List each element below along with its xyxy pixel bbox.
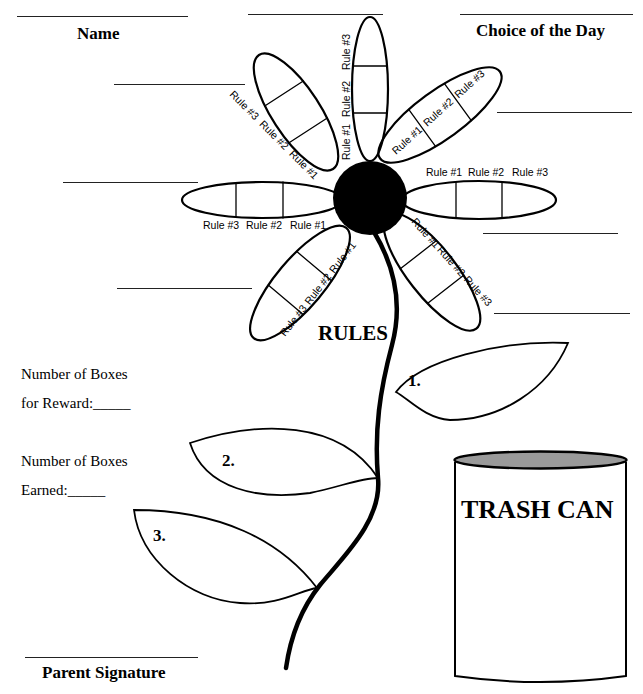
svg-text:Rule #2: Rule #2: [421, 95, 456, 128]
svg-text:Rule #2: Rule #2: [435, 244, 468, 279]
parent-signature-line[interactable]: [25, 657, 198, 658]
svg-text:Rule #3: Rule #3: [203, 219, 239, 231]
svg-text:Rule #1: Rule #1: [389, 123, 424, 156]
leaf-1-number: 1.: [408, 371, 421, 391]
trash-can: [455, 452, 627, 683]
svg-text:Rule #1: Rule #1: [290, 219, 326, 231]
svg-text:Rule #2: Rule #2: [468, 166, 504, 178]
svg-text:Rule #1: Rule #1: [326, 239, 358, 275]
leaf-2-number: 2.: [222, 451, 235, 471]
flower-center: [333, 161, 407, 235]
svg-text:Rule #1: Rule #1: [287, 147, 321, 181]
svg-text:Rule #1: Rule #1: [340, 124, 352, 160]
flower-drawing: Rule #1 Rule #2 Rule #3 Rule #3 Rule #2 …: [0, 0, 643, 694]
svg-text:Rule #2: Rule #2: [246, 219, 282, 231]
svg-text:Rule #1: Rule #1: [426, 166, 462, 178]
svg-text:Rule #1: Rule #1: [410, 215, 443, 250]
rules-title: RULES: [318, 321, 388, 345]
boxes-earned-line1: Number of Boxes: [21, 453, 128, 470]
svg-text:Rule #3: Rule #3: [228, 88, 262, 122]
trash-can-label: TRASH CAN: [461, 495, 614, 524]
boxes-for-reward-field[interactable]: for Reward:_____: [21, 395, 131, 412]
leaf-1: [396, 343, 568, 420]
petal-left: [182, 182, 342, 218]
leaf-3: [134, 510, 317, 603]
svg-text:Rule #3: Rule #3: [277, 302, 309, 338]
svg-text:Rule #2: Rule #2: [340, 81, 352, 117]
svg-text:Rule #3: Rule #3: [512, 166, 548, 178]
svg-text:Rule #3: Rule #3: [340, 34, 352, 70]
svg-text:Rule #2: Rule #2: [302, 271, 334, 307]
boxes-earned-field[interactable]: Earned:_____: [21, 482, 105, 499]
boxes-for-reward-line1: Number of Boxes: [21, 366, 128, 383]
petal-right: [402, 181, 556, 219]
parent-signature-label: Parent Signature: [42, 663, 166, 683]
leaf-3-number: 3.: [153, 526, 166, 546]
leaf-2: [190, 429, 378, 495]
